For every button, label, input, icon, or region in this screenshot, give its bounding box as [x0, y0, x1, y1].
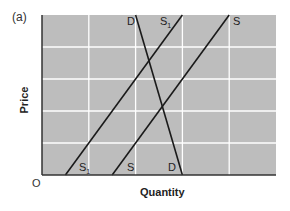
origin-label: O [32, 177, 41, 189]
x-axis-label: Quantity [140, 186, 185, 198]
supply-demand-chart: DS1SS1SD [0, 0, 290, 211]
label-d-bottom: D [168, 161, 176, 173]
label-s-top: S [233, 15, 240, 27]
label-d-top: D [127, 15, 135, 27]
y-axis-label: Price [18, 82, 30, 118]
label-s-bottom: S [127, 161, 134, 173]
